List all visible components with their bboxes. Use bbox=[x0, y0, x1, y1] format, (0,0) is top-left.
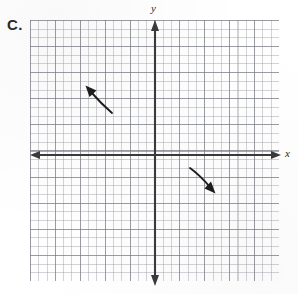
y-axis-label: y bbox=[151, 3, 156, 14]
x-axis-label: x bbox=[285, 148, 290, 159]
annotations-layer bbox=[0, 0, 298, 294]
arrow-lower-right-icon bbox=[190, 168, 216, 194]
arrow-upper-left-icon bbox=[86, 86, 113, 114]
graph-figure: C. y x bbox=[0, 0, 298, 294]
